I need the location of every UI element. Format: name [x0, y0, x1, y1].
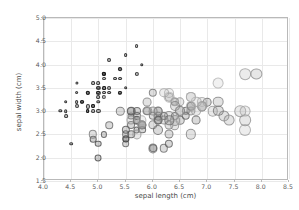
x-tick-label-6: 7.0 [201, 183, 211, 190]
data-point [153, 125, 163, 135]
data-point [124, 86, 128, 90]
data-point [118, 67, 122, 71]
y-tickmark-6 [41, 40, 43, 41]
data-point [102, 86, 106, 90]
data-point [116, 107, 124, 115]
x-tickmark-2 [97, 180, 98, 182]
data-point [165, 140, 173, 148]
data-point [64, 100, 68, 104]
data-point [91, 109, 95, 113]
data-point [127, 116, 136, 125]
gridline-y-0 [44, 181, 287, 182]
data-point [95, 140, 102, 147]
y-tickmark-5 [41, 64, 43, 65]
x-tick-label-8: 8.0 [256, 183, 266, 190]
data-point [91, 81, 95, 85]
y-tickmark-2 [41, 133, 43, 134]
x-tick-label-9: 8.5 [283, 183, 293, 190]
data-point [213, 78, 224, 89]
data-point [75, 105, 79, 109]
data-point [91, 105, 95, 109]
data-point [118, 91, 122, 95]
y-tickmark-1 [41, 157, 43, 158]
x-tickmark-3 [125, 180, 126, 182]
x-tickmark-9 [288, 180, 289, 182]
data-point [132, 130, 141, 139]
x-tick-label-0: 4.0 [38, 183, 48, 190]
data-point [75, 100, 79, 104]
x-tick-label-4: 6.0 [147, 183, 157, 190]
x-tickmark-5 [179, 180, 180, 182]
data-point [101, 131, 107, 137]
x-tick-label-1: 4.5 [65, 183, 75, 190]
y-tickmark-0 [41, 180, 43, 181]
data-point [124, 53, 128, 57]
data-point [113, 77, 117, 81]
gridline-x-9 [289, 18, 290, 179]
data-point [135, 44, 139, 48]
x-tick-label-7: 7.5 [228, 183, 238, 190]
x-tick-label-2: 5.0 [92, 183, 102, 190]
data-point [85, 90, 90, 95]
data-point [102, 77, 106, 81]
x-axis-title: sepal length (cm) [43, 192, 288, 200]
data-point [64, 114, 68, 118]
data-point [107, 58, 111, 62]
data-point [102, 95, 106, 99]
data-point [240, 106, 251, 117]
data-point [165, 130, 174, 139]
data-point [149, 88, 157, 96]
y-tickmark-3 [41, 110, 43, 111]
data-point [69, 142, 73, 146]
data-point [251, 68, 262, 79]
data-point [134, 72, 138, 76]
data-point [97, 95, 101, 99]
data-point [86, 109, 90, 113]
plot-area [43, 17, 288, 180]
data-point [95, 154, 102, 161]
data-point [102, 91, 106, 95]
x-tickmark-4 [152, 180, 153, 182]
y-axis-title: sepal width (cm) [15, 42, 23, 162]
x-tickmark-0 [43, 180, 44, 182]
data-point [143, 97, 152, 106]
data-point [59, 109, 62, 112]
y-tickmark-4 [41, 87, 43, 88]
x-tickmark-6 [206, 180, 207, 182]
y-tickmark-7 [41, 17, 43, 18]
data-point [224, 115, 235, 126]
data-point [96, 109, 100, 113]
data-point [159, 88, 169, 98]
x-tickmark-7 [234, 180, 235, 182]
data-point [240, 68, 252, 80]
data-point [64, 109, 68, 113]
data-point [107, 86, 111, 90]
x-tick-label-3: 5.5 [120, 183, 130, 190]
data-point [75, 82, 78, 85]
data-point [118, 77, 122, 81]
data-points-layer [44, 18, 287, 179]
data-point [86, 104, 90, 108]
data-point [97, 81, 101, 85]
data-point [148, 144, 157, 153]
x-tick-label-5: 6.5 [174, 183, 184, 190]
data-point [170, 102, 180, 112]
data-point [192, 116, 201, 125]
x-tickmark-8 [261, 180, 262, 182]
data-point [186, 129, 196, 139]
data-point [75, 91, 79, 95]
data-point [106, 121, 114, 129]
scatter-plot-figure: 4.04.55.05.56.06.57.07.58.08.5 1.52.02.5… [0, 0, 299, 210]
data-point [107, 91, 111, 95]
x-tickmark-1 [70, 180, 71, 182]
data-point [97, 100, 100, 103]
data-point [140, 63, 143, 66]
